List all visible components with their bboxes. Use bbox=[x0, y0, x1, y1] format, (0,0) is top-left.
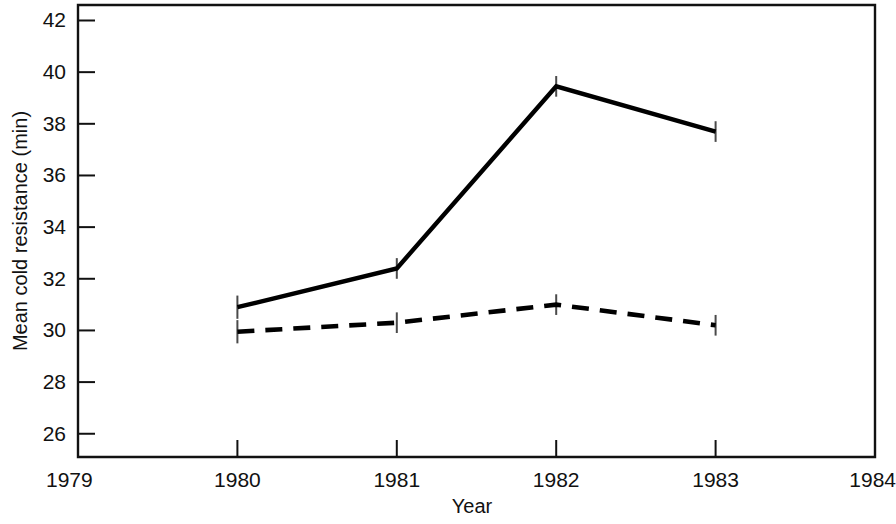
x-axis-tick-marks bbox=[237, 440, 715, 457]
y-axis-tick-marks bbox=[78, 20, 95, 433]
y-axis-tick-labels: 262830323436384042 bbox=[43, 8, 67, 444]
line-chart: 262830323436384042 197919801981198219831… bbox=[0, 0, 896, 524]
plot-frame bbox=[78, 5, 875, 457]
y-tick-label: 28 bbox=[43, 370, 66, 393]
x-tick-label: 1980 bbox=[214, 468, 261, 491]
chart-figure: 262830323436384042 197919801981198219831… bbox=[0, 0, 896, 524]
y-tick-label: 32 bbox=[43, 267, 66, 290]
x-tick-label: 1982 bbox=[533, 468, 580, 491]
x-tick-label: 1981 bbox=[373, 468, 420, 491]
x-tick-label: 1983 bbox=[692, 468, 739, 491]
solid-line-series bbox=[237, 86, 715, 307]
y-axis-title: Mean cold resistance (min) bbox=[9, 111, 31, 351]
y-tick-label: 38 bbox=[43, 112, 66, 135]
x-axis-tick-labels: 197919801981198219831984 bbox=[46, 468, 896, 491]
dashed-line-series bbox=[237, 305, 715, 332]
y-tick-label: 40 bbox=[43, 60, 66, 83]
y-tick-label: 42 bbox=[43, 8, 66, 31]
x-tick-label: 1979 bbox=[46, 468, 93, 491]
y-tick-label: 30 bbox=[43, 318, 66, 341]
x-tick-label: 1984 bbox=[849, 468, 896, 491]
y-tick-label: 26 bbox=[43, 422, 66, 445]
x-axis-title: Year bbox=[452, 495, 493, 517]
y-tick-label: 34 bbox=[43, 215, 67, 238]
error-bars-dashed-series bbox=[237, 294, 715, 343]
y-tick-label: 36 bbox=[43, 163, 66, 186]
